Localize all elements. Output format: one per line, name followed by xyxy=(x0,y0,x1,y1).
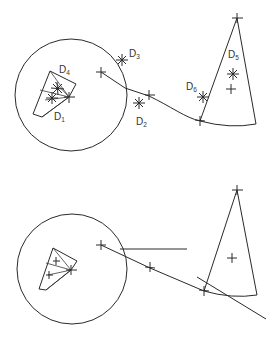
cross-marker-sector-base xyxy=(195,116,205,126)
cross-marker-apex xyxy=(232,13,243,23)
tangent-line xyxy=(197,277,266,319)
path-curve xyxy=(149,96,200,121)
cross-marker-centroid xyxy=(226,84,236,94)
label-d1: D1 xyxy=(54,111,65,123)
cross-marker-centroid xyxy=(227,253,237,263)
label-d4: D4 xyxy=(59,64,70,76)
label-d6: D6 xyxy=(186,81,197,93)
label-d5: D5 xyxy=(228,49,239,61)
diagram-canvas: D4 D1 D3 D2 D6 D5 xyxy=(0,0,277,344)
star-marker-d2 xyxy=(133,97,145,109)
label-d3: D3 xyxy=(129,48,140,60)
cross-marker-small xyxy=(46,271,53,279)
star-marker-d5 xyxy=(227,68,239,80)
cross-marker-mid xyxy=(145,262,155,272)
cross-marker-start xyxy=(96,240,106,250)
circle-region xyxy=(15,39,127,151)
cross-marker-start xyxy=(96,67,106,78)
bottom-panel xyxy=(17,185,266,324)
label-d2: D2 xyxy=(136,116,147,128)
sector-shape xyxy=(200,18,256,126)
cross-marker-sector-base xyxy=(199,286,209,296)
cross-marker-small xyxy=(53,257,60,265)
sector-shape xyxy=(204,190,257,296)
cross-marker-apex xyxy=(232,185,243,195)
path-line xyxy=(101,72,149,96)
top-panel: D4 D1 D3 D2 D6 D5 xyxy=(15,13,256,151)
